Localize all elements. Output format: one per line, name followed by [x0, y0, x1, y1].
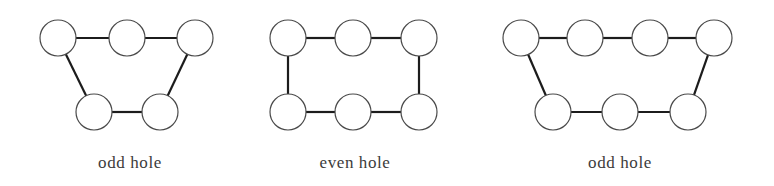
graph-odd-hole-right-caption: odd hole — [588, 153, 652, 172]
graph-even-hole-middle-node-top-2 — [335, 20, 371, 56]
graph-figure-svg: odd holeeven holeodd hole — [0, 0, 774, 186]
graph-even-hole-middle-node-bottom-3 — [401, 94, 437, 130]
graph-odd-hole-right-node-top-1 — [503, 20, 539, 56]
graph-even-hole-middle-node-top-1 — [270, 20, 306, 56]
graph-odd-hole-left-node-top-1 — [40, 20, 76, 56]
graph-odd-hole-left-node-top-2 — [109, 20, 145, 56]
graph-even-hole-middle-node-top-3 — [401, 20, 437, 56]
graph-odd-hole-right-node-bottom-2 — [602, 94, 638, 130]
graph-odd-hole-left-caption: odd hole — [98, 153, 162, 172]
graph-even-hole-middle-caption: even hole — [319, 153, 390, 172]
graph-odd-hole-right-node-top-4 — [696, 20, 732, 56]
graph-even-hole-middle-node-bottom-1 — [270, 94, 306, 130]
graph-odd-hole-right-node-bottom-1 — [535, 94, 571, 130]
graph-figure: odd holeeven holeodd hole — [0, 0, 774, 186]
graph-odd-hole-right-node-top-3 — [632, 20, 668, 56]
graph-even-hole-middle-node-bottom-2 — [335, 94, 371, 130]
graph-odd-hole-left-node-bottom-1 — [76, 94, 112, 130]
graph-odd-hole-right-node-top-2 — [567, 20, 603, 56]
graph-odd-hole-left-node-top-3 — [177, 20, 213, 56]
graph-odd-hole-left-node-bottom-2 — [142, 94, 178, 130]
graph-odd-hole-right-node-bottom-3 — [670, 94, 706, 130]
